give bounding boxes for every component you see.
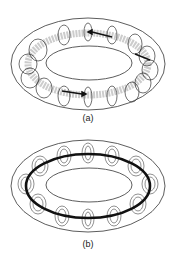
torus-a-icon [0, 14, 176, 114]
panel-b-diagram [0, 136, 176, 236]
panel-a-diagram [0, 14, 176, 114]
torus-b-icon [0, 136, 176, 236]
panel-a-label: (a) [0, 113, 176, 123]
panel-b-label: (b) [0, 239, 176, 249]
